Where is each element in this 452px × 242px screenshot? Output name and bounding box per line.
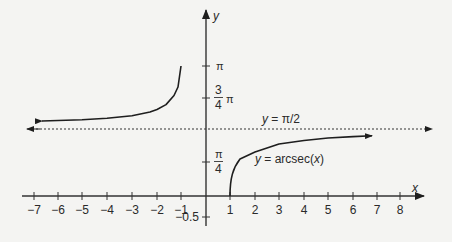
x-tick-label: 4 — [301, 203, 308, 217]
x-tick-label: −6 — [51, 203, 65, 217]
y-axis-label: y — [212, 9, 220, 23]
asymptote-label: y = π/2 — [261, 112, 300, 126]
y-tick-label-quarter-pi: π 4 — [214, 148, 223, 176]
x-tick-label: −7 — [27, 203, 41, 217]
y-tick-label-three-quarter-pi: 3 4 π — [214, 83, 234, 112]
x-tick-label: 5 — [325, 203, 332, 217]
x-tick-label: 8 — [397, 203, 404, 217]
x-tick-label: 2 — [252, 203, 259, 217]
x-tick-label: −2 — [150, 203, 164, 217]
x-tick-label: 7 — [374, 203, 381, 217]
arcsec-left-branch — [42, 66, 181, 121]
svg-text:3: 3 — [215, 83, 222, 97]
curve-label: y = arcsec(x) — [254, 152, 324, 166]
x-tick-label: −3 — [125, 203, 139, 217]
x-tick-label: 6 — [350, 203, 357, 217]
arcsec-graph: −7 −6 −5 −4 −3 −2 −1 1 2 3 4 5 6 7 8 π 3… — [0, 0, 452, 242]
svg-text:4: 4 — [215, 98, 222, 112]
x-tick-label: 1 — [227, 203, 234, 217]
x-tick-label: 3 — [276, 203, 283, 217]
svg-text:π: π — [215, 148, 223, 160]
x-axis-label: x — [411, 181, 419, 195]
chart-container: −7 −6 −5 −4 −3 −2 −1 1 2 3 4 5 6 7 8 π 3… — [0, 0, 452, 242]
x-tick-label: −5 — [75, 203, 89, 217]
svg-text:4: 4 — [215, 162, 222, 176]
x-tick-labels: −7 −6 −5 −4 −3 −2 −1 1 2 3 4 5 6 7 8 — [27, 203, 404, 217]
y-tick-label-neg-half: −0.5 — [175, 210, 199, 224]
y-tick-label-pi: π — [216, 60, 224, 72]
svg-text:π: π — [226, 93, 234, 105]
x-tick-label: −4 — [100, 203, 114, 217]
